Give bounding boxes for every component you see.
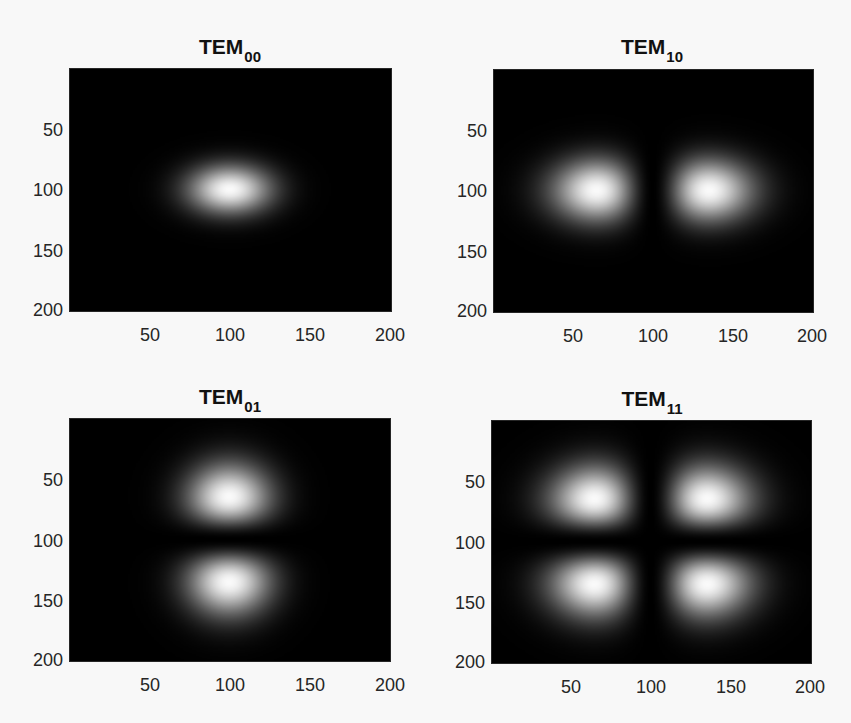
x-tick-label: 100	[215, 676, 245, 694]
y-tick-label: 200	[33, 651, 63, 669]
heatmap-image	[492, 421, 811, 663]
title-subscript: 10	[666, 48, 683, 65]
x-tick-label: 200	[797, 327, 827, 345]
y-tick-label: 100	[457, 182, 487, 200]
y-tick-label: 200	[457, 302, 487, 320]
heatmap-image	[70, 419, 390, 661]
x-tick-label: 50	[563, 327, 583, 345]
x-tick-label: 50	[140, 676, 160, 694]
x-tick-label: 200	[375, 676, 405, 694]
subplot-title: TEM01	[199, 386, 261, 407]
title-main: TEM	[199, 35, 243, 58]
heatmap-axes	[70, 69, 391, 311]
y-tick-label: 50	[465, 473, 485, 491]
title-main: TEM	[621, 35, 665, 58]
y-tick-label: 150	[455, 594, 485, 612]
heatmap-axes	[494, 70, 813, 312]
title-main: TEM	[199, 385, 243, 408]
subplot-title: TEM10	[621, 36, 683, 57]
title-subscript: 00	[244, 48, 261, 65]
y-tick-label: 50	[43, 121, 63, 139]
x-tick-label: 150	[716, 678, 746, 696]
x-tick-label: 100	[215, 326, 245, 344]
y-tick-label: 150	[33, 592, 63, 610]
x-tick-label: 150	[718, 327, 748, 345]
x-tick-label: 150	[295, 676, 325, 694]
x-tick-label: 200	[375, 326, 405, 344]
y-tick-label: 200	[33, 301, 63, 319]
figure: TEM00 50 100 150 200 50 100 150 200 TEM1…	[0, 0, 851, 723]
heatmap-image	[70, 69, 391, 311]
title-subscript: 01	[244, 398, 261, 415]
heatmap-image	[494, 70, 813, 312]
heatmap-axes	[70, 419, 390, 661]
y-tick-label: 100	[455, 534, 485, 552]
title-main: TEM	[621, 387, 665, 410]
y-tick-label: 150	[457, 243, 487, 261]
x-tick-label: 100	[636, 678, 666, 696]
x-tick-label: 100	[638, 327, 668, 345]
x-tick-label: 200	[795, 678, 825, 696]
x-tick-label: 50	[140, 326, 160, 344]
title-subscript: 11	[667, 400, 683, 417]
subplot-title: TEM00	[199, 36, 261, 57]
y-tick-label: 200	[455, 653, 485, 671]
y-tick-label: 150	[33, 242, 63, 260]
y-tick-label: 100	[33, 532, 63, 550]
x-tick-label: 150	[295, 326, 325, 344]
y-tick-label: 50	[467, 122, 487, 140]
y-tick-label: 50	[43, 471, 63, 489]
heatmap-axes	[492, 421, 811, 663]
subplot-title: TEM11	[621, 388, 682, 409]
y-tick-label: 100	[33, 181, 63, 199]
x-tick-label: 50	[561, 678, 581, 696]
